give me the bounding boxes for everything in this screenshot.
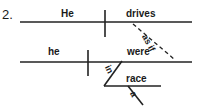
subordinate-clause-subject-label: he bbox=[48, 47, 60, 57]
main-clause-subject-label: He bbox=[61, 9, 74, 19]
preposition-object-label: race bbox=[126, 74, 147, 84]
subordinate-clause-verb-label: were bbox=[127, 47, 150, 57]
sentence-diagram-canvas: 2. He drives as if he were in race a bbox=[0, 0, 201, 111]
item-number: 2. bbox=[2, 8, 13, 21]
diagram-lines-svg bbox=[0, 0, 201, 111]
main-clause-verb-label: drives bbox=[126, 9, 155, 19]
